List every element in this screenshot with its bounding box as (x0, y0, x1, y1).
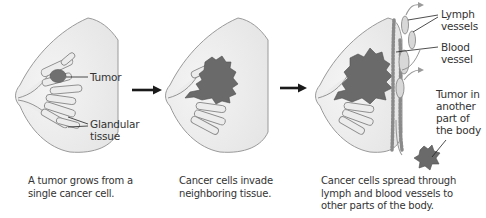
caption-stage-1: A tumor grows from a single cancer cell. (28, 175, 133, 200)
label-metastasis-2: another (436, 100, 476, 112)
label-tumor: Tumor (90, 71, 121, 83)
label-glandular-tissue-2: tissue (90, 130, 120, 142)
label-lymph-vessels-2: vessels (441, 20, 478, 32)
caption-stage-2: Cancer cells invade neighboring tissue. (179, 175, 273, 200)
caption-line: other parts of the body. (321, 200, 456, 213)
label-lymph-vessels-1: Lymph (441, 8, 475, 20)
tumor-stage-1 (50, 70, 66, 83)
label-blood-vessel-2: vessel (441, 53, 473, 65)
caption-line: single cancer cell. (28, 188, 133, 201)
label-blood-vessel-1: Blood (441, 41, 470, 53)
arrow-right-icon (280, 84, 307, 93)
label-metastasis-4: the body (436, 124, 481, 136)
label-metastasis-1: Tumor in (436, 88, 480, 100)
label-glandular-tissue-1: Glandular (90, 118, 139, 130)
metastatic-tumor (414, 145, 440, 170)
label-metastasis-3: part of (436, 112, 470, 124)
caption-line: lymph and blood vessels to (321, 188, 456, 201)
caption-line: Cancer cells spread through (321, 175, 456, 188)
arrow-right-icon (132, 86, 162, 95)
caption-line: A tumor grows from a (28, 175, 133, 188)
caption-line: neighboring tissue. (179, 188, 273, 201)
caption-stage-3: Cancer cells spread through lymph and bl… (321, 175, 456, 213)
caption-line: Cancer cells invade (179, 175, 273, 188)
